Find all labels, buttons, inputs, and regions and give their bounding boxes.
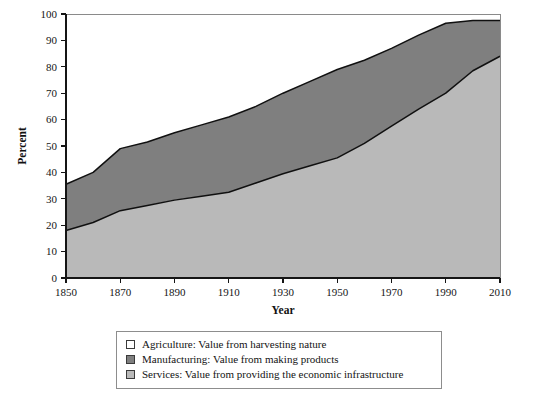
x-tick-label: 1870 (109, 286, 132, 298)
legend-label-services: Services: Value from providing the econo… (142, 368, 403, 381)
legend-swatch-services (126, 370, 135, 379)
x-tick-label: 1970 (381, 286, 404, 298)
y-tick-label: 10 (46, 245, 58, 257)
legend-swatch-agriculture (126, 340, 135, 349)
chart-legend: Agriculture: Value from harvesting natur… (116, 331, 442, 389)
x-tick-label: 1890 (164, 286, 187, 298)
y-axis-title: Percent (16, 127, 28, 165)
legend-label-agriculture: Agriculture: Value from harvesting natur… (142, 338, 326, 351)
y-tick-label: 80 (46, 61, 58, 73)
figure-container: 0102030405060708090100185018701890191019… (0, 0, 539, 396)
legend-swatch-manufacturing (126, 355, 135, 364)
y-tick-label: 90 (46, 34, 58, 46)
legend-item-agriculture: Agriculture: Value from harvesting natur… (126, 337, 432, 352)
y-tick-label: 70 (46, 87, 58, 99)
y-tick-label: 40 (46, 166, 58, 178)
y-tick-label: 100 (41, 8, 58, 20)
legend-item-services: Services: Value from providing the econo… (126, 367, 432, 382)
y-tick-label: 0 (52, 272, 58, 284)
x-tick-label: 1910 (218, 286, 241, 298)
area-chart: 0102030405060708090100185018701890191019… (0, 0, 539, 320)
legend-item-manufacturing: Manufacturing: Value from making product… (126, 352, 432, 367)
x-tick-label: 1990 (435, 286, 458, 298)
x-tick-label: 2010 (489, 286, 512, 298)
y-tick-label: 60 (46, 113, 58, 125)
x-tick-label: 1850 (55, 286, 78, 298)
x-tick-label: 1930 (272, 286, 295, 298)
legend-label-manufacturing: Manufacturing: Value from making product… (142, 353, 339, 366)
y-tick-label: 30 (46, 193, 58, 205)
x-tick-label: 1950 (326, 286, 349, 298)
y-tick-label: 50 (46, 140, 58, 152)
x-axis-title: Year (272, 304, 295, 316)
y-tick-label: 20 (46, 219, 58, 231)
